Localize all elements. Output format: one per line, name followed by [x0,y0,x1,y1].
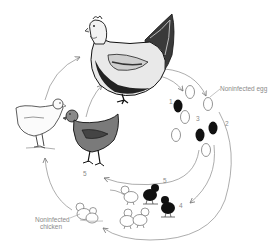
arrow-eggs-to-dark-pullet [104,150,199,185]
arrow-dark-pullet-to-hen [86,85,102,117]
noninfected-egg [172,129,181,142]
adult-hen-illustration [85,14,174,104]
noninfected-egg-label: Noninfected egg [220,85,267,92]
noninfected-chick [76,203,103,223]
step-3-label: 3 [196,115,200,122]
infected-chick [161,196,175,217]
noninfected-egg [186,86,195,99]
arrow-pullet-to-hen [45,57,80,100]
infected-egg [196,129,205,142]
noninfected-chick [120,209,134,229]
infected-pullet-illustration [63,110,119,166]
arrow-hen-to-eggs-inner [160,76,183,91]
noninfected-egg-pointer [210,89,220,97]
noninfected-pullet-illustration [16,99,66,149]
noninfected-egg [202,144,211,157]
diagram-canvas [0,0,279,249]
infected-egg [209,122,218,135]
noninfected-egg [204,98,213,111]
noninfected-egg [181,111,190,124]
step-1-label: 1 [169,98,173,105]
noninfected-chick [133,208,149,228]
arrow-chicks-to-white-pullet [45,158,72,210]
noninfected-chicken-label-line1: Noninfected [35,216,70,223]
infected-egg [174,100,183,113]
chicks-group [70,184,175,229]
infected-chick [143,184,159,204]
life-cycle-diagram: Noninfected egg Noninfected chicken 1 2 … [0,0,279,249]
step-5a-label: 5 [163,177,167,184]
step-4-label: 4 [179,202,183,209]
noninfected-chicken-label-line2: chicken [40,223,62,230]
noninfected-chick [121,186,138,205]
step-2-label: 2 [225,120,229,127]
step-5b-label: 5 [83,170,87,177]
